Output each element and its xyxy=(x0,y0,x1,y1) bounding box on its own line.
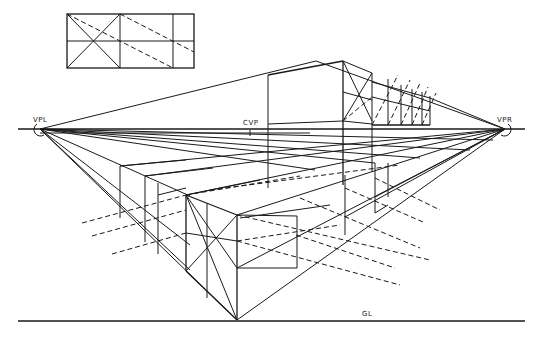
tall-box xyxy=(268,61,436,188)
dashed-construction xyxy=(82,165,440,285)
gl-label: GL xyxy=(362,310,372,318)
vpl-label: VPL xyxy=(33,116,47,124)
inset-grid xyxy=(67,14,194,68)
cvp-label: CVP xyxy=(243,119,258,127)
perspective-drawing xyxy=(0,0,541,338)
vpr-label: VPR xyxy=(497,116,512,124)
